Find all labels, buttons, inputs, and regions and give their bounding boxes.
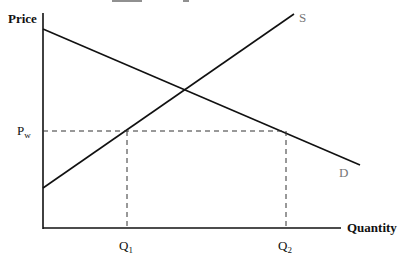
q1-label: Q1 [119, 238, 133, 255]
demand-label: D [339, 165, 348, 180]
y-axis-label: Price [8, 11, 37, 26]
cropped-title-fragment [112, 0, 142, 2]
supply-label: S [299, 10, 306, 25]
supply-curve [43, 14, 294, 188]
x-axis-label: Quantity [347, 220, 397, 235]
q2-label: Q2 [278, 238, 292, 255]
world-price-label: Pw [17, 123, 31, 140]
demand-curve [43, 29, 360, 165]
supply-demand-diagram: Price Quantity S D Pw Q1 Q2 [0, 0, 404, 258]
cropped-title-fragment [183, 0, 189, 2]
